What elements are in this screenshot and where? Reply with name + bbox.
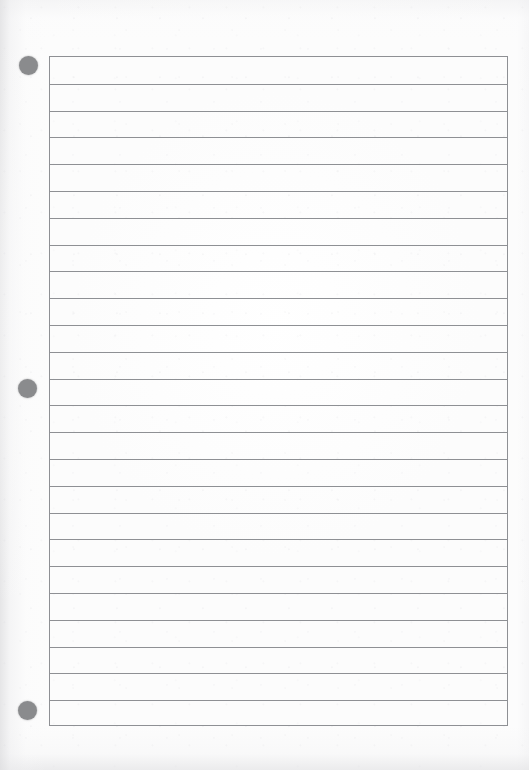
rule-line — [50, 271, 507, 272]
rule-line — [50, 298, 507, 299]
rule-line — [50, 164, 507, 165]
scanned-page — [0, 0, 529, 770]
rule-line — [50, 137, 507, 138]
rule-line — [50, 432, 507, 433]
rule-line — [50, 325, 507, 326]
rule-line — [50, 459, 507, 460]
rule-line — [50, 620, 507, 621]
rule-line — [50, 647, 507, 648]
rule-line — [50, 245, 507, 246]
top-hole-punch — [19, 56, 38, 75]
rule-line — [50, 111, 507, 112]
rule-line — [50, 218, 507, 219]
rule-line — [50, 486, 507, 487]
ruled-writing-area[interactable] — [49, 56, 508, 726]
rule-line — [50, 379, 507, 380]
rule-line — [50, 593, 507, 594]
middle-hole-punch — [18, 379, 37, 398]
rule-line — [50, 352, 507, 353]
rule-line — [50, 539, 507, 540]
rule-line — [50, 84, 507, 85]
rule-line — [50, 405, 507, 406]
bottom-hole-punch — [18, 701, 37, 720]
rule-line — [50, 700, 507, 701]
rule-line — [50, 673, 507, 674]
rule-line — [50, 513, 507, 514]
rule-line — [50, 191, 507, 192]
rule-line — [50, 566, 507, 567]
